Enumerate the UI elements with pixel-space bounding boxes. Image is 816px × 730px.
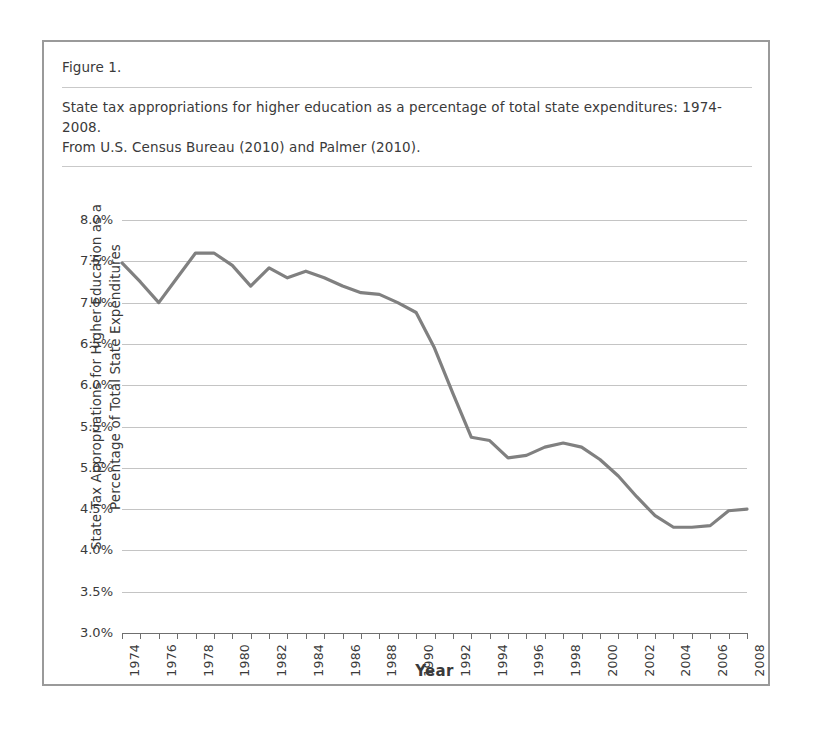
- y-tick-label: 6.0%: [53, 377, 113, 392]
- x-tick-mark: [453, 633, 454, 639]
- x-tick-mark: [398, 633, 399, 639]
- x-tick-mark: [673, 633, 674, 639]
- x-tick-mark: [196, 633, 197, 639]
- y-tick-label: 7.5%: [53, 253, 113, 268]
- x-tick-mark: [637, 633, 638, 639]
- x-axis-title: Year: [122, 662, 747, 680]
- y-tick-label: 3.5%: [53, 584, 113, 599]
- plot-area: 8.0%7.5%7.0%6.5%6.0%5.5%5.0%4.5%4.0%3.5%…: [122, 220, 747, 633]
- data-series-line: [122, 220, 747, 633]
- y-tick-label: 6.5%: [53, 336, 113, 351]
- x-tick-mark: [490, 633, 491, 639]
- x-tick-mark: [692, 633, 693, 639]
- chart-region: State Tax Appropriations for Higher Educ…: [44, 162, 768, 684]
- figure-caption-block: Figure 1. State tax appropriations for h…: [62, 58, 752, 167]
- x-tick-mark: [710, 633, 711, 639]
- x-tick-mark: [600, 633, 601, 639]
- x-tick-mark: [563, 633, 564, 639]
- y-tick-label: 8.0%: [53, 212, 113, 227]
- x-tick-mark: [306, 633, 307, 639]
- y-tick-label: 4.0%: [53, 542, 113, 557]
- x-tick-mark: [545, 633, 546, 639]
- y-tick-label: 5.0%: [53, 460, 113, 475]
- x-tick-mark: [324, 633, 325, 639]
- x-tick-mark: [582, 633, 583, 639]
- x-tick-mark: [287, 633, 288, 639]
- x-tick-mark: [416, 633, 417, 639]
- x-tick-mark: [232, 633, 233, 639]
- x-tick-label: 2008: [752, 644, 767, 677]
- x-tick-mark: [729, 633, 730, 639]
- y-tick-label: 3.0%: [53, 625, 113, 640]
- x-tick-mark: [140, 633, 141, 639]
- x-tick-mark: [269, 633, 270, 639]
- x-tick-mark: [471, 633, 472, 639]
- x-tick-mark: [618, 633, 619, 639]
- x-tick-mark: [508, 633, 509, 639]
- y-tick-label: 4.5%: [53, 501, 113, 516]
- figure-caption-text: State tax appropriations for higher educ…: [62, 88, 748, 166]
- caption-line-2: From U.S. Census Bureau (2010) and Palme…: [62, 137, 748, 157]
- x-tick-mark: [379, 633, 380, 639]
- x-tick-mark: [177, 633, 178, 639]
- y-tick-label: 5.5%: [53, 419, 113, 434]
- x-tick-mark: [122, 633, 123, 639]
- x-tick-mark: [655, 633, 656, 639]
- x-tick-mark: [214, 633, 215, 639]
- x-tick-mark: [435, 633, 436, 639]
- x-tick-mark: [343, 633, 344, 639]
- figure-frame: Figure 1. State tax appropriations for h…: [42, 40, 770, 686]
- caption-line-1: State tax appropriations for higher educ…: [62, 97, 748, 137]
- x-tick-mark: [747, 633, 748, 639]
- x-tick-mark: [526, 633, 527, 639]
- figure-number-label: Figure 1.: [62, 58, 752, 76]
- x-tick-mark: [361, 633, 362, 639]
- x-tick-mark: [159, 633, 160, 639]
- x-tick-mark: [251, 633, 252, 639]
- y-tick-label: 7.0%: [53, 295, 113, 310]
